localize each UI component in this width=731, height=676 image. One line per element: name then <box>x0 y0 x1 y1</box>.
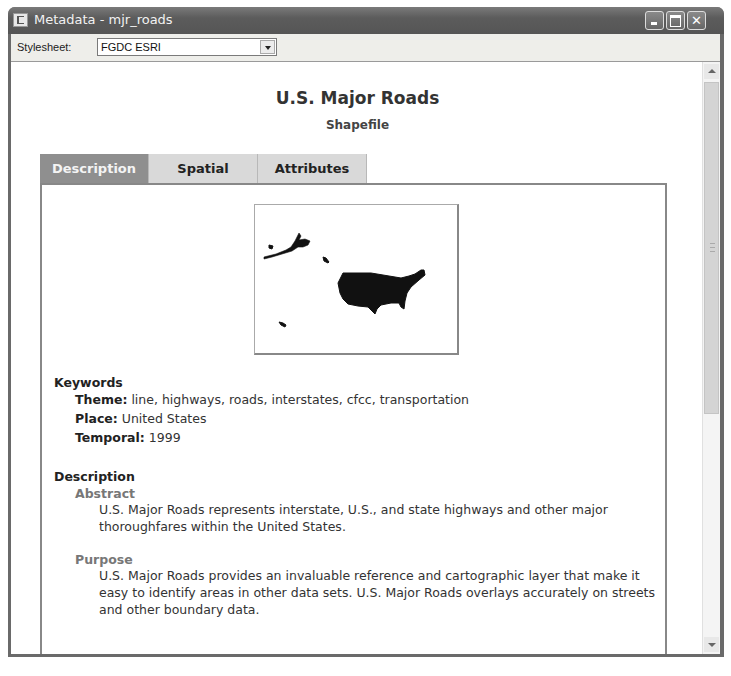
purpose-text: U.S. Major Roads provides an invaluable … <box>99 567 664 618</box>
metadata-window: Metadata - mjr_roads ✕ Stylesheet: FGDC … <box>8 7 724 657</box>
vertical-scrollbar[interactable] <box>702 62 720 654</box>
title-bar[interactable]: Metadata - mjr_roads ✕ <box>8 7 724 34</box>
app-icon <box>13 13 28 27</box>
scroll-up-arrow-icon[interactable] <box>704 64 719 79</box>
keywords-heading: Keywords <box>54 375 664 390</box>
maximize-button[interactable] <box>666 11 685 30</box>
minimize-button[interactable] <box>645 11 664 30</box>
theme-value: line, highways, roads, interstates, cfcc… <box>131 392 469 407</box>
temporal-label: Temporal: <box>75 430 145 445</box>
stylesheet-label: Stylesheet: <box>17 41 71 53</box>
close-button[interactable]: ✕ <box>687 11 706 30</box>
tab-description[interactable]: Description <box>40 154 149 183</box>
place-keywords: Place: United States <box>75 409 664 428</box>
abstract-heading: Abstract <box>75 486 664 501</box>
place-value: United States <box>122 411 207 426</box>
us-map-image <box>255 205 457 353</box>
grip-icon <box>710 243 715 252</box>
chevron-down-icon[interactable] <box>260 40 275 54</box>
toolbar: Stylesheet: FGDC ESRI <box>11 34 720 62</box>
map-thumbnail <box>254 204 459 355</box>
metadata-content: U.S. Major Roads Shapefile Description S… <box>11 62 720 654</box>
window-title: Metadata - mjr_roads <box>34 12 173 27</box>
temporal-value: 1999 <box>149 430 181 445</box>
stylesheet-value: FGDC ESRI <box>101 41 161 53</box>
tab-attributes[interactable]: Attributes <box>258 154 367 183</box>
purpose-heading: Purpose <box>75 552 664 567</box>
stylesheet-dropdown[interactable]: FGDC ESRI <box>97 38 277 56</box>
place-label: Place: <box>75 411 118 426</box>
theme-label: Theme: <box>75 392 127 407</box>
window-client: Stylesheet: FGDC ESRI U.S. Major Roads S… <box>11 34 720 654</box>
scroll-thumb[interactable] <box>704 82 719 414</box>
tab-spatial[interactable]: Spatial <box>149 154 258 183</box>
abstract-text: U.S. Major Roads represents interstate, … <box>99 501 664 535</box>
scroll-down-arrow-icon[interactable] <box>704 637 719 652</box>
description-heading: Description <box>54 469 664 484</box>
theme-keywords: Theme: line, highways, roads, interstate… <box>75 390 664 409</box>
description-body: Keywords Theme: line, highways, roads, i… <box>54 375 664 618</box>
page-subtitle: Shapefile <box>11 118 704 132</box>
temporal-keywords: Temporal: 1999 <box>75 428 664 447</box>
page-title: U.S. Major Roads <box>11 88 704 108</box>
